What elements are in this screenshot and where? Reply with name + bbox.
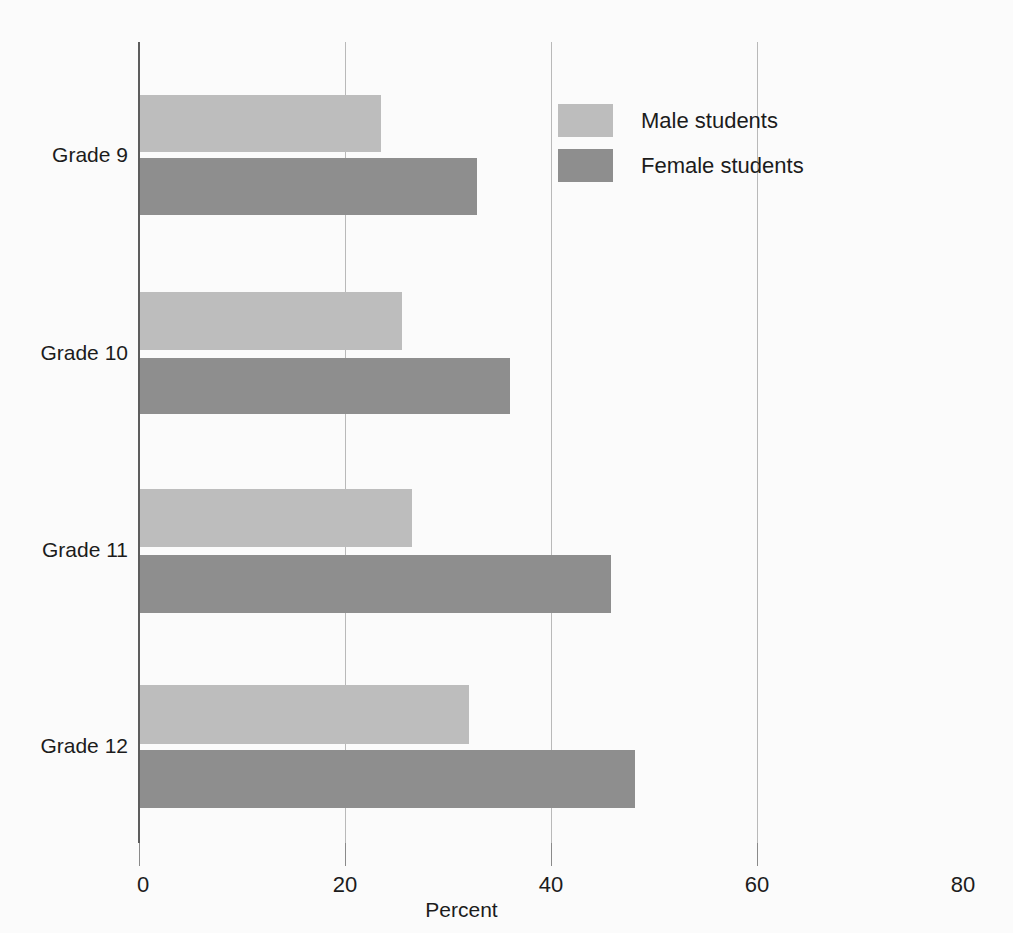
x-tick-label-20: 20 bbox=[333, 872, 357, 898]
y-tick-grade-11: Grade 11 bbox=[0, 538, 128, 562]
legend: Male students Female students bbox=[558, 98, 804, 188]
y-tick-grade-12: Grade 12 bbox=[0, 734, 128, 758]
x-axis-title-text: Percent bbox=[425, 898, 497, 922]
legend-label-male: Male students bbox=[641, 108, 778, 134]
x-tick-mark-20 bbox=[345, 843, 346, 866]
bar-grade-11-female bbox=[139, 555, 611, 613]
x-tick-label-0: 0 bbox=[137, 872, 149, 898]
y-axis-labels: Grade 9 Grade 10 Grade 11 Grade 12 bbox=[0, 0, 128, 933]
x-tick-mark-60 bbox=[757, 843, 758, 866]
legend-label-female: Female students bbox=[641, 153, 804, 179]
y-tick-grade-10: Grade 10 bbox=[0, 341, 128, 365]
x-tick-label-60: 60 bbox=[745, 872, 769, 898]
gridline-40 bbox=[551, 42, 552, 843]
bar-grade-9-male bbox=[139, 95, 381, 152]
bar-grade-10-male bbox=[139, 292, 402, 350]
bar-grade-10-female bbox=[139, 358, 510, 414]
x-tick-mark-0 bbox=[139, 843, 140, 866]
grouped-bar-chart: Grade 9 Grade 10 Grade 11 Grade 12 0 20 … bbox=[0, 0, 1013, 933]
x-tick-mark-40 bbox=[551, 843, 552, 866]
legend-item-male: Male students bbox=[558, 98, 804, 143]
plot-area bbox=[139, 42, 963, 843]
x-tick-label-40: 40 bbox=[539, 872, 563, 898]
y-axis-spine bbox=[138, 42, 140, 843]
bar-grade-11-male bbox=[139, 489, 412, 547]
legend-swatch-female-icon bbox=[558, 149, 613, 182]
bar-grade-12-female bbox=[139, 750, 635, 808]
bar-grade-9-female bbox=[139, 158, 477, 215]
y-tick-grade-9: Grade 9 bbox=[0, 143, 128, 167]
legend-item-female: Female students bbox=[558, 143, 804, 188]
legend-swatch-male-icon bbox=[558, 104, 613, 137]
x-tick-label-80: 80 bbox=[951, 872, 975, 898]
bar-grade-12-male bbox=[139, 685, 469, 744]
x-axis-title: Percent bbox=[0, 898, 1013, 922]
